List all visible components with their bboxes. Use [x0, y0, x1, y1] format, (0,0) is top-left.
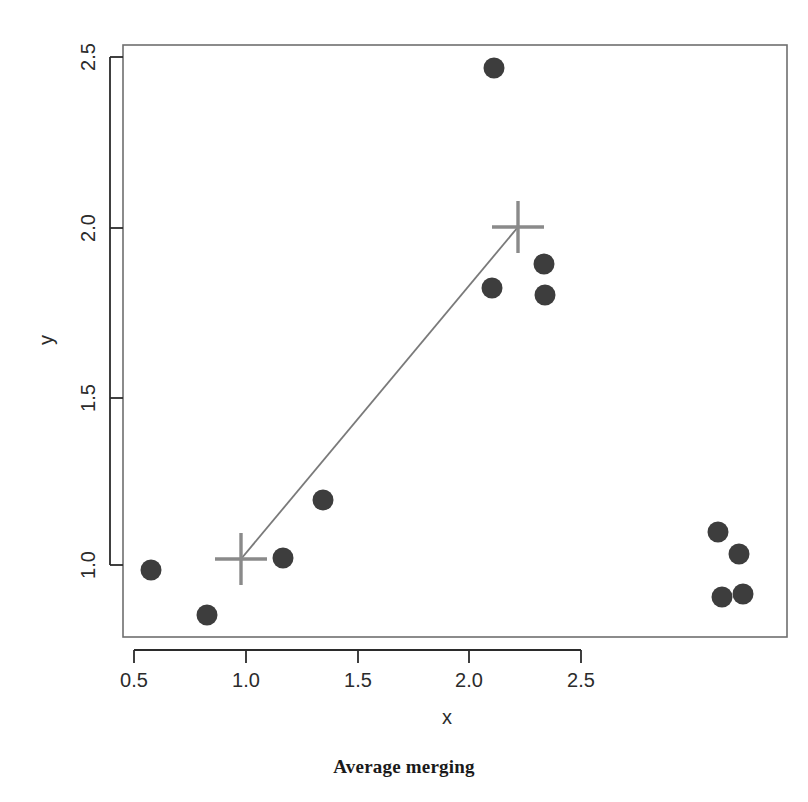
data-point — [534, 254, 555, 275]
y-axis-ticks — [110, 57, 123, 565]
data-point — [273, 548, 294, 569]
data-point — [712, 587, 733, 608]
figure-caption: Average merging — [0, 756, 808, 778]
y-tick-label-2.0: 2.0 — [77, 214, 99, 242]
y-tick-label-1.5: 1.5 — [77, 384, 99, 412]
merge-connector-line — [241, 227, 518, 559]
data-point — [733, 584, 754, 605]
data-point — [708, 522, 729, 543]
data-point — [482, 278, 503, 299]
y-axis-tick-labels: 2.5 2.0 1.5 1.0 — [77, 43, 99, 579]
scatter-plot-figure: 2.5 2.0 1.5 1.0 0.5 1.0 1.5 2.0 2.5 x y — [0, 0, 808, 802]
plot-svg: 2.5 2.0 1.5 1.0 0.5 1.0 1.5 2.0 2.5 x y — [0, 0, 808, 802]
x-tick-label-1.5: 1.5 — [344, 669, 372, 691]
data-point-markers — [141, 58, 754, 626]
data-point — [313, 490, 334, 511]
plus-icon — [492, 201, 544, 253]
data-point — [197, 605, 218, 626]
plot-frame — [123, 45, 787, 637]
data-point — [141, 560, 162, 581]
x-tick-label-2.0: 2.0 — [455, 669, 483, 691]
data-point — [484, 58, 505, 79]
plus-icon — [215, 533, 267, 585]
x-tick-label-0.5: 0.5 — [120, 669, 148, 691]
y-axis-title: y — [35, 335, 57, 345]
data-point — [729, 544, 750, 565]
x-tick-label-2.5: 2.5 — [567, 669, 595, 691]
x-tick-label-1.0: 1.0 — [232, 669, 260, 691]
data-point — [535, 285, 556, 306]
x-axis-tick-labels: 0.5 1.0 1.5 2.0 2.5 — [120, 669, 595, 691]
x-axis-ticks — [134, 650, 581, 663]
y-tick-label-1.0: 1.0 — [77, 551, 99, 579]
x-axis-title: x — [442, 706, 452, 728]
y-tick-label-2.5: 2.5 — [77, 43, 99, 71]
